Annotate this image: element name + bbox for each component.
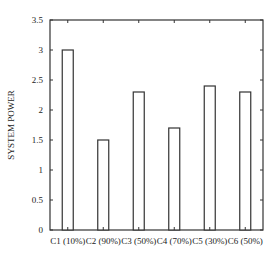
bar — [204, 86, 215, 230]
y-tick-label: 1 — [39, 165, 44, 175]
y-tick-label: 3.5 — [32, 15, 44, 25]
y-tick-label: 3 — [39, 45, 44, 55]
y-axis-title: SYSTEM POWER — [6, 90, 16, 159]
plot-area: 00.511.522.533.5C1 (10%)C2 (90%)C3 (50%)… — [6, 15, 263, 246]
x-tick-label: C6 (50%) — [228, 236, 263, 246]
x-tick-label: C4 (70%) — [157, 236, 192, 246]
x-tick-label: C1 (10%) — [50, 236, 85, 246]
y-tick-label: 2 — [39, 105, 44, 115]
x-tick-label: C5 (30%) — [192, 236, 227, 246]
y-tick-label: 0.5 — [32, 195, 44, 205]
bar — [169, 128, 180, 230]
bar — [98, 140, 109, 230]
bar — [133, 92, 144, 230]
x-tick-label: C2 (90%) — [86, 236, 121, 246]
bar — [240, 92, 251, 230]
y-tick-label: 2.5 — [32, 75, 44, 85]
bar-chart: 00.511.522.533.5C1 (10%)C2 (90%)C3 (50%)… — [0, 0, 278, 259]
x-tick-label: C3 (50%) — [121, 236, 156, 246]
y-tick-label: 1.5 — [32, 135, 44, 145]
bar — [62, 50, 73, 230]
y-tick-label: 0 — [39, 225, 44, 235]
plot-frame — [50, 20, 263, 230]
